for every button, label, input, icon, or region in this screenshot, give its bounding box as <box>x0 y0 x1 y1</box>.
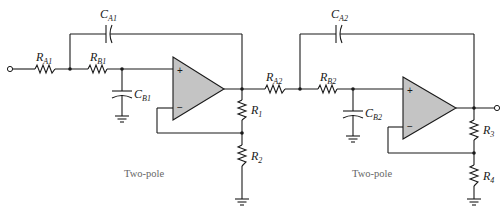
label-ca1: CA1 <box>100 7 117 23</box>
resistor-ra1 <box>35 65 55 73</box>
opamp-1-plus: + <box>177 65 183 76</box>
resistor-ra2 <box>265 85 285 93</box>
input-terminal <box>7 66 12 71</box>
label-rb1: RB1 <box>89 50 106 66</box>
label-cb2: CB2 <box>365 106 382 122</box>
resistor-r1 <box>238 100 246 120</box>
resistor-r2 <box>238 145 246 166</box>
label-ca2: CA2 <box>331 7 348 23</box>
label-r2: R2 <box>250 149 262 165</box>
opamp-1-minus: − <box>177 102 183 113</box>
resistor-r4 <box>470 165 478 186</box>
ground-icon <box>115 116 129 122</box>
junction-dot <box>240 131 244 135</box>
resistor-rb1 <box>88 65 107 73</box>
label-r4: R4 <box>482 169 494 185</box>
label-rb2: RB2 <box>319 70 336 86</box>
label-ra2: RA2 <box>265 70 282 86</box>
opamp-2-minus: − <box>407 121 413 132</box>
label-ra1: RA1 <box>35 50 52 66</box>
stage-2-caption: Two-pole <box>352 168 392 179</box>
resistor-rb2 <box>318 85 337 93</box>
label-r1: R1 <box>250 103 262 119</box>
ground-icon <box>346 136 360 142</box>
opamp-2-plus: + <box>407 85 413 96</box>
label-r3: R3 <box>482 123 494 139</box>
circuit-diagram: + − + − <box>0 0 504 216</box>
ground-icon <box>467 199 481 205</box>
junction-dot <box>472 151 476 155</box>
ground-icon <box>235 199 249 205</box>
output-terminal <box>494 105 499 110</box>
label-cb1: CB1 <box>134 87 151 103</box>
stage-1-caption: Two-pole <box>124 168 164 179</box>
resistor-r3 <box>470 120 478 140</box>
